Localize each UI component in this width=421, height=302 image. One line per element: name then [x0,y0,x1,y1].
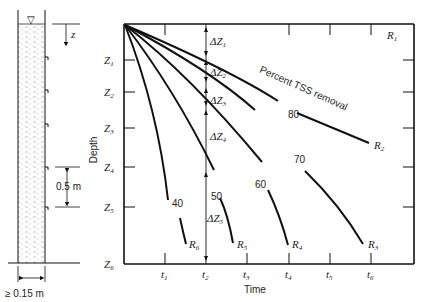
y-tick-z3: Z3 [104,122,114,136]
curve-r4 [125,25,262,162]
percent-labels: 80 70 60 50 40 [172,109,306,209]
x-tick-t3: t3 [243,268,250,282]
curve-r3 [125,25,255,110]
x-ticks [165,24,371,264]
label-r5: R5 [236,238,248,252]
z-label: z [70,28,76,40]
percent-50: 50 [211,191,223,202]
curve-r6 [125,25,168,200]
percent-70: 70 [294,154,306,165]
x-tick-t6: t6 [367,268,374,282]
label-r4: R4 [291,238,303,252]
percent-80: 80 [288,109,300,120]
y-ticks [124,60,414,207]
x-tick-t4: t4 [285,268,292,282]
y-tick-z5: Z5 [104,201,114,215]
label-r2: R2 [373,139,385,153]
y-tick-z2: Z2 [104,86,114,100]
x-tick-t5: t5 [326,268,333,282]
curve-r5 [125,25,214,170]
port-spacing-label: 0.5 m [56,181,81,192]
x-tick-t1: t1 [161,268,168,282]
curve-r4-end [268,190,288,245]
diameter-label: ≥ 0.15 m [5,288,44,299]
settling-diagram: ▽ z 0.5 m ≥ 0.15 m [0,0,421,302]
curve-title: Percent TSS removal [258,64,349,113]
delta-z4: ΔZ4 [209,130,227,144]
y-tick-labels: Z1 Z2 Z3 Z4 Z5 Z6 [104,54,114,272]
percent-40: 40 [172,198,184,209]
curve-r6-end [180,218,186,244]
label-r3: R3 [367,238,379,252]
delta-z5: ΔZ5 [206,212,224,226]
label-r6: R6 [188,238,200,252]
percent-60: 60 [255,179,267,190]
y-tick-z6: Z6 [104,258,114,272]
y-tick-z1: Z1 [104,54,114,68]
y-tick-z4: Z4 [104,161,114,175]
delta-z1: ΔZ1 [209,35,226,49]
water-surface-icon: ▽ [27,14,35,25]
x-tick-labels: t1 t2 t3 t4 t5 t6 [161,268,374,282]
y-axis-label: Depth [88,137,99,164]
curve-r3-end [305,171,363,244]
label-r1: R1 [386,29,397,43]
curve-r2-end [297,113,369,143]
settling-column [8,10,80,263]
x-axis-label: Time [244,284,266,295]
removal-curves [125,25,369,245]
x-tick-t2: t2 [202,268,209,282]
water-fill [18,24,45,263]
